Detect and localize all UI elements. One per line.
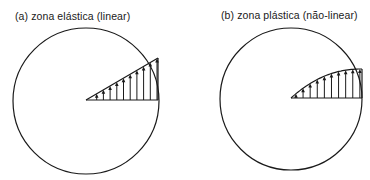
panel-elastic <box>13 28 159 174</box>
stress-envelope-linear <box>86 58 158 100</box>
cross-section-circle-elastic <box>13 28 159 174</box>
panel-plastic <box>220 28 362 170</box>
stress-arrows-plastic <box>294 69 362 98</box>
cross-section-circle-plastic <box>220 28 362 170</box>
arrow-head <box>358 69 362 73</box>
stress-envelope-nonlinear <box>291 69 362 98</box>
diagram-canvas <box>0 0 370 180</box>
